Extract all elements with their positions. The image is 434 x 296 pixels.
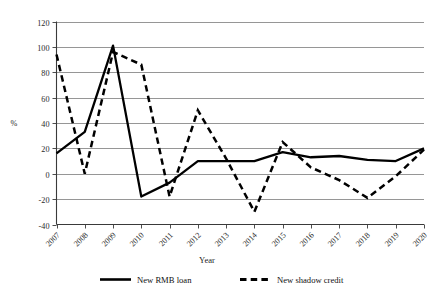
y-tick-label: 40 xyxy=(41,120,49,129)
line-chart-svg: 120100806040200-20-40 200720082009201020… xyxy=(0,0,434,296)
y-tick-label: 120 xyxy=(37,19,49,28)
y-tick-label: -40 xyxy=(39,222,50,231)
legend-label-new-shadow-credit: New shadow credit xyxy=(277,275,344,285)
x-axis-title: Year xyxy=(199,255,215,265)
y-axis-title: % xyxy=(11,119,18,128)
y-tick-label: 20 xyxy=(41,145,49,154)
legend-label-new-rmb-loan: New RMB loan xyxy=(137,275,192,285)
y-tick-label: 60 xyxy=(41,95,49,104)
y-tick-label: 100 xyxy=(37,44,49,53)
y-tick-label: -20 xyxy=(39,196,50,205)
chart-figure: 120100806040200-20-40 200720082009201020… xyxy=(0,0,434,296)
y-tick-label: 0 xyxy=(45,171,49,180)
y-tick-label: 80 xyxy=(41,69,49,78)
